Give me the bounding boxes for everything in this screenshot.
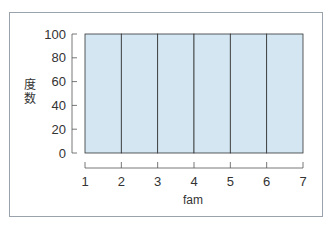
histogram-bar — [85, 34, 121, 153]
x-tick-label: 4 — [190, 174, 197, 189]
x-tick-label: 7 — [299, 174, 306, 189]
bars — [85, 34, 303, 153]
y-axis: 020406080100 — [44, 27, 77, 161]
y-tick-label: 80 — [52, 50, 66, 65]
histogram-bar — [194, 34, 230, 153]
y-tick-label: 0 — [59, 146, 66, 161]
histogram-bar — [267, 34, 303, 153]
y-axis-title-2: 数 — [24, 91, 36, 106]
x-axis-title: fam — [183, 193, 203, 207]
histogram-chart: 020406080100 1234567 度 数 fam — [0, 0, 333, 226]
x-tick-label: 6 — [263, 174, 270, 189]
x-tick-label: 1 — [81, 174, 88, 189]
histogram-bar — [158, 34, 194, 153]
x-axis: 1234567 — [81, 162, 306, 189]
x-tick-label: 3 — [154, 174, 161, 189]
y-axis-title-1: 度 — [24, 77, 36, 92]
histogram-bar — [230, 34, 266, 153]
x-tick-label: 2 — [118, 174, 125, 189]
y-tick-label: 20 — [52, 122, 66, 137]
y-tick-label: 60 — [52, 74, 66, 89]
histogram-bar — [121, 34, 157, 153]
x-tick-label: 5 — [227, 174, 234, 189]
y-tick-label: 40 — [52, 98, 66, 113]
y-tick-label: 100 — [44, 27, 66, 42]
